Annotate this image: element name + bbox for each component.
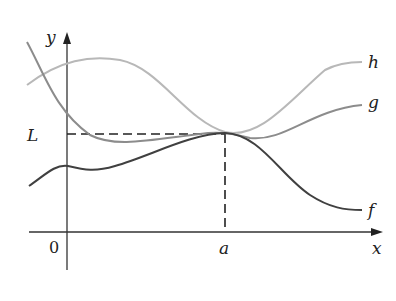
curve-g-label: g xyxy=(368,92,379,112)
curve-h-label: h xyxy=(368,52,379,72)
x-axis-label: x xyxy=(372,238,382,258)
y-axis-label: y xyxy=(45,27,56,47)
L-label: L xyxy=(26,125,38,145)
curve-h xyxy=(27,58,362,133)
squeeze-theorem-diagram: y x 0 a L h g f xyxy=(0,0,396,301)
a-label: a xyxy=(219,238,229,258)
curve-f xyxy=(29,133,362,210)
y-axis-arrow-icon xyxy=(63,32,71,44)
curve-f-label: f xyxy=(366,200,377,220)
x-axis-arrow-icon xyxy=(371,228,383,236)
curve-g xyxy=(27,42,362,142)
origin-label: 0 xyxy=(49,238,59,257)
